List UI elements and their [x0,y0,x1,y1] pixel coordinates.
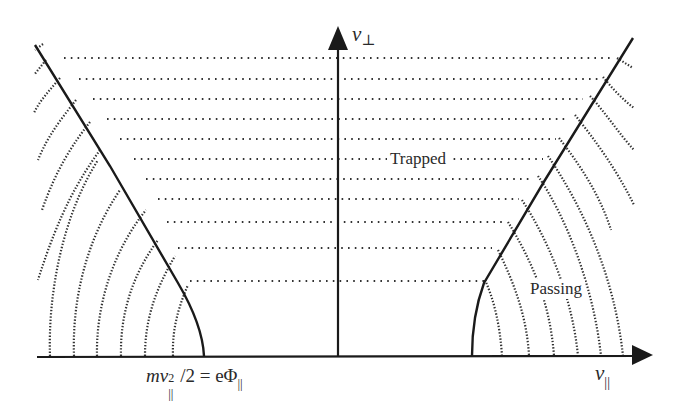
eq-sup: 2 [168,371,174,386]
eq-sub: || [168,386,173,402]
horizontal-axis-label: v|| [595,361,610,386]
v-perp-sub: ⊥ [361,32,375,48]
eq-phi-sub: || [238,376,243,391]
passing-text: Passing [530,279,582,298]
eq-m: m [146,365,160,386]
left-outer-arcs [34,44,100,280]
vertical-axis-arrowhead [328,26,348,50]
left-passing-arcs [50,160,188,356]
v-perp-main: v [352,22,361,46]
eq-phi: Φ [224,365,238,386]
right-outer-arcs [559,58,634,230]
right-passing-arcs [485,156,623,356]
boundary-equation-label: mv2||/2 = eΦ|| [146,365,243,387]
passing-region-label: Passing [527,279,585,299]
trapped-passing-diagram [0,0,677,409]
v-par-main: v [595,361,604,385]
eq-rest: /2 = e [180,365,223,386]
horizontal-axis-arrowhead [632,345,653,365]
left-boundary-curve [35,45,204,356]
trapped-region-label: Trapped [387,149,449,169]
right-boundary-curve [472,38,633,356]
vertical-axis-label: v⊥ [352,22,375,47]
axes [37,26,653,365]
boundary-curves [35,38,633,356]
trapped-text: Trapped [390,149,446,168]
eq-v: v [160,365,168,386]
v-par-sub: || [604,375,610,390]
